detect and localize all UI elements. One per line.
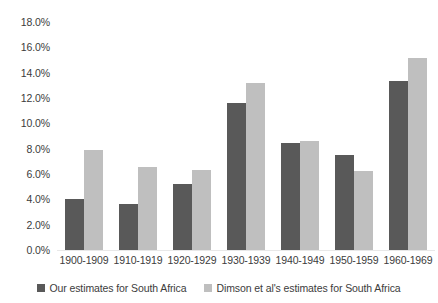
y-axis: 18.0%16.0%14.0%12.0%10.0%8.0%6.0%4.0%2.0… (0, 0, 50, 303)
legend: Our estimates for South AfricaDimson et … (0, 280, 438, 296)
bar-group (281, 23, 319, 251)
bar-our-estimates (389, 81, 408, 251)
bar-group (227, 23, 265, 251)
bar-dimson-estimates (246, 83, 265, 251)
bar-our-estimates (65, 199, 84, 251)
y-axis-tick-label: 4.0% (0, 194, 50, 205)
y-axis-tick-label: 6.0% (0, 169, 50, 180)
legend-swatch-icon (37, 284, 45, 292)
bar-dimson-estimates (192, 170, 211, 251)
legend-label: Our estimates for South Africa (49, 283, 186, 294)
x-axis-tick-label: 1910-1919 (107, 254, 169, 267)
x-axis-tick-label: 1900-1909 (53, 254, 115, 267)
y-axis-tick-label: 0.0% (0, 245, 50, 256)
y-axis-tick-label: 10.0% (0, 118, 50, 129)
y-axis-tick-label: 16.0% (0, 42, 50, 53)
bar-our-estimates (281, 143, 300, 251)
plot-area (57, 23, 435, 251)
legend-swatch-icon (204, 284, 212, 292)
bar-group (389, 23, 427, 251)
x-axis-tick-label: 1930-1939 (215, 254, 277, 267)
y-axis-tick-label: 2.0% (0, 220, 50, 231)
bar-dimson-estimates (354, 171, 373, 251)
y-axis-tick-label: 8.0% (0, 144, 50, 155)
x-axis-tick-label: 1950-1959 (323, 254, 385, 267)
bar-dimson-estimates (84, 150, 103, 251)
x-axis-tick-label: 1960-1969 (377, 254, 438, 267)
x-axis-tick-label: 1940-1949 (269, 254, 331, 267)
bar-dimson-estimates (300, 141, 319, 251)
bar-group (335, 23, 373, 251)
x-axis-tick-label: 1920-1929 (161, 254, 223, 267)
x-axis: 1900-19091910-19191920-19291930-19391940… (57, 254, 435, 270)
y-axis-tick-label: 14.0% (0, 68, 50, 79)
y-axis-tick-label: 18.0% (0, 17, 50, 28)
bar-group (119, 23, 157, 251)
bar-dimson-estimates (408, 58, 427, 251)
bar-dimson-estimates (138, 167, 157, 251)
legend-item: Our estimates for South Africa (37, 283, 186, 294)
bar-our-estimates (335, 155, 354, 251)
legend-label: Dimson et al's estimates for South Afric… (216, 283, 400, 294)
y-axis-tick-label: 12.0% (0, 93, 50, 104)
bar-group (65, 23, 103, 251)
bar-our-estimates (227, 103, 246, 251)
bar-chart: 18.0%16.0%14.0%12.0%10.0%8.0%6.0%4.0%2.0… (0, 0, 438, 303)
x-axis-baseline (57, 250, 435, 251)
legend-item: Dimson et al's estimates for South Afric… (204, 283, 400, 294)
bar-our-estimates (119, 204, 138, 251)
bar-our-estimates (173, 184, 192, 251)
bar-group (173, 23, 211, 251)
